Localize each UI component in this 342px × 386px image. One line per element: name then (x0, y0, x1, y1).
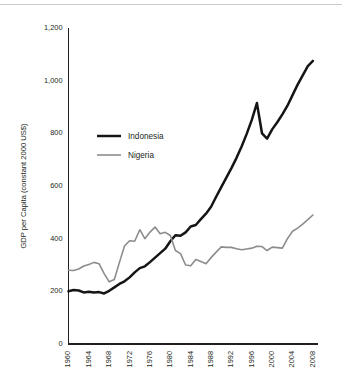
x-tick-label: 1992 (226, 351, 235, 367)
x-tick-label: 1988 (206, 351, 215, 367)
x-tick-label: 1996 (247, 351, 256, 367)
y-tick-label: 800 (50, 128, 62, 137)
data-series-lines (69, 61, 313, 294)
x-tick-label: 2000 (267, 351, 276, 367)
x-tick-label: 1960 (63, 351, 72, 367)
axis-lines (69, 28, 319, 344)
x-tick-label: 1984 (186, 351, 195, 367)
chart-figure: 02004006008001,0001,200 1960196419681972… (0, 0, 342, 386)
legend-label-indonesia: Indonesia (128, 132, 164, 141)
x-tick-label: 2008 (308, 351, 317, 367)
y-axis-title: GDP per Capita (constant 2000 US$) (19, 123, 28, 249)
x-tick-label: 2004 (287, 351, 296, 367)
y-tick-label: 200 (50, 286, 62, 295)
x-axis-tick-labels: 1960196419681972197619801984198819921996… (63, 351, 316, 367)
x-tick-label: 1964 (84, 351, 93, 367)
x-tick-label: 1972 (125, 351, 134, 367)
x-tick-label: 1968 (104, 351, 113, 367)
y-tick-label: 1,000 (44, 76, 63, 85)
series-line-indonesia (69, 61, 313, 294)
y-axis-tick-labels: 02004006008001,0001,200 (44, 23, 63, 348)
gdp-per-capita-line-chart: 02004006008001,0001,200 1960196419681972… (0, 0, 342, 386)
series-line-nigeria (69, 215, 313, 282)
y-tick-label: 600 (50, 181, 62, 190)
x-tick-label: 1976 (145, 351, 154, 367)
x-tick-label: 1980 (165, 351, 174, 367)
y-tick-label: 0 (58, 339, 62, 348)
y-tick-label: 1,200 (44, 23, 63, 32)
legend-label-nigeria: Nigeria (128, 151, 154, 160)
plot-axes (69, 28, 319, 344)
y-tick-label: 400 (50, 234, 62, 243)
chart-legend: IndonesiaNigeria (97, 132, 164, 160)
